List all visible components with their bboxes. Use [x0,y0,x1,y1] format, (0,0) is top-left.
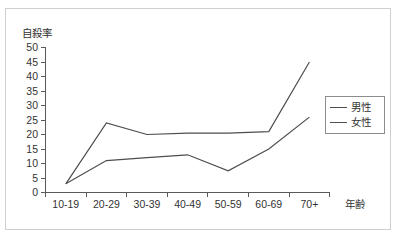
y-axis-title: 自殺率 [22,27,52,39]
x-tick-label-70plus: 70+ [300,198,318,210]
chart-legend: 男性 女性 [325,96,385,134]
x-tick-label-10-19: 10-19 [52,198,79,210]
y-tick-label-20: 20 [26,128,38,140]
y-tick-label-0: 0 [32,186,38,198]
y-tick-marks [41,48,46,193]
legend-swatch-female [330,122,347,123]
chart-figure: 50 45 40 35 30 25 20 15 10 5 0 10-19 20-… [0,0,399,240]
legend-swatch-male [330,107,347,108]
y-tick-label-25: 25 [26,114,38,126]
y-tick-label-50: 50 [26,41,38,53]
x-tick-marks [46,193,330,198]
y-tick-label-30: 30 [26,99,38,111]
y-tick-label-15: 15 [26,143,38,155]
y-tick-label-35: 35 [26,85,38,97]
legend-item-female: 女性 [330,115,380,130]
legend-label-male: 男性 [351,101,371,114]
y-tick-label-10: 10 [26,157,38,169]
y-tick-label-5: 5 [32,172,38,184]
x-tick-label-20-29: 20-29 [93,198,120,210]
legend-label-female: 女性 [351,116,371,129]
x-tick-label-50-59: 50-59 [215,198,242,210]
x-axis-title: 年齢 [345,198,366,210]
y-tick-label-45: 45 [26,56,38,68]
series-line-female [66,117,310,184]
legend-item-male: 男性 [330,100,380,115]
x-tick-label-60-69: 60-69 [255,198,282,210]
x-tick-label-30-39: 30-39 [134,198,161,210]
y-tick-label-40: 40 [26,70,38,82]
x-tick-label-40-49: 40-49 [174,198,201,210]
series-line-male [66,62,310,184]
